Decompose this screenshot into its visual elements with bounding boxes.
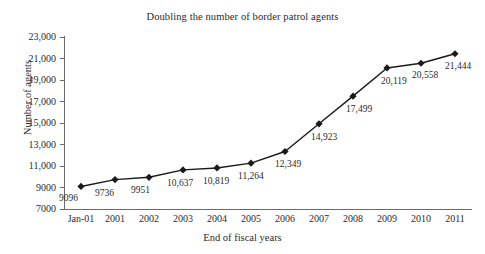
y-tick-label: 9000 — [0, 182, 56, 193]
data-point-label: 10,637 — [167, 178, 193, 188]
chart-figure: Doubling the number of border patrol age… — [0, 0, 485, 254]
x-tick-label: 2004 — [200, 213, 234, 224]
x-tick-label: 2011 — [438, 213, 472, 224]
data-marker — [111, 176, 118, 183]
data-marker — [451, 50, 458, 57]
x-tick-label: 2009 — [370, 213, 404, 224]
data-point-label: 12,349 — [275, 159, 301, 169]
data-point-label: 17,499 — [346, 104, 372, 114]
x-tick-label: 2003 — [166, 213, 200, 224]
x-tick-label: 2008 — [336, 213, 370, 224]
x-axis-title: End of fiscal years — [0, 232, 485, 243]
data-point-label: 11,264 — [238, 171, 264, 181]
x-tick-label: 2001 — [98, 213, 132, 224]
y-tick-label: 7000 — [0, 203, 56, 214]
data-marker — [213, 164, 220, 171]
data-point-label: 14,923 — [311, 132, 337, 142]
x-tick-label: 2006 — [268, 213, 302, 224]
data-point-label: 20,119 — [381, 76, 407, 86]
data-marker — [417, 60, 424, 67]
data-point-label: 9951 — [131, 185, 150, 195]
data-point-label: 9096 — [59, 193, 78, 203]
data-marker — [145, 174, 152, 181]
data-point-label: 21,444 — [445, 61, 471, 71]
x-tick-label: 2007 — [302, 213, 336, 224]
y-axis-title: Number of agents — [22, 23, 33, 173]
data-marker — [247, 160, 254, 167]
data-point-label: 10,819 — [203, 176, 229, 186]
data-marker — [77, 183, 84, 190]
data-point-label: 20,558 — [412, 70, 438, 80]
axes — [60, 36, 472, 209]
x-tick-label: 2002 — [132, 213, 166, 224]
data-marker — [179, 166, 186, 173]
data-point-label: 9736 — [95, 188, 114, 198]
x-tick-label: Jan-01 — [64, 213, 98, 224]
x-tick-label: 2005 — [234, 213, 268, 224]
x-tick-label: 2010 — [404, 213, 438, 224]
data-series-line — [81, 54, 455, 187]
data-markers — [77, 50, 458, 190]
